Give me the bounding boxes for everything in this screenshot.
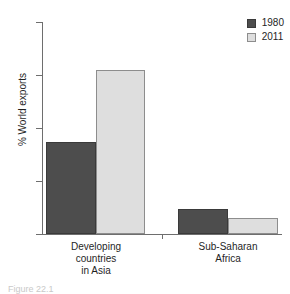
legend-item-2011: 2011: [247, 32, 284, 42]
x-category-label-developing-asia: Developing countries in Asia: [36, 241, 156, 277]
light-swatch-icon: [247, 33, 256, 42]
legend: 1980 2011: [247, 18, 284, 42]
y-tick-0: [36, 234, 42, 235]
legend-label-2011: 2011: [262, 32, 284, 42]
legend-label-1980: 1980: [262, 18, 284, 28]
x-tick-group-separator: [162, 234, 163, 239]
y-axis-title: % World exports: [17, 40, 28, 180]
dark-swatch-icon: [247, 19, 256, 28]
bar-subsaharan-africa-1980: [178, 209, 228, 234]
bar-chart-figure: % World exports 40 30 20 10 0 Developing…: [0, 0, 290, 294]
plot-area: [42, 22, 282, 234]
legend-item-1980: 1980: [247, 18, 284, 28]
bar-developing-asia-2011: [96, 70, 145, 234]
bar-subsaharan-africa-2011: [228, 218, 278, 234]
x-category-label-subsaharan-africa: Sub-Saharan Africa: [168, 241, 288, 265]
figure-caption: Figure 22.1: [8, 284, 54, 294]
bar-developing-asia-1980: [46, 142, 96, 234]
